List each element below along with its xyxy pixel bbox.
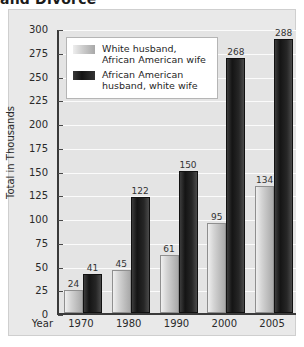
gridline [59,30,296,31]
y-axis-tick-label: 75 [8,239,48,249]
bar: 41 [83,274,102,313]
y-axis-tick-label: 150 [8,168,48,178]
y-axis-tick-mark [58,149,63,150]
x-axis-tick-label: 1980 [105,319,153,329]
x-axis-tick-label: 2000 [200,319,248,329]
gridline [59,149,296,150]
y-axis-tick-mark [58,30,63,31]
y-axis-tick-mark [58,244,63,245]
chart-legend: White husband, African American wifeAfri… [66,37,218,99]
y-axis-tick-label: 200 [8,120,48,130]
y-axis-tick-label: 275 [8,49,48,59]
gridline [59,101,296,102]
y-axis-tick-mark [58,101,63,102]
y-axis-tick-label: 250 [8,73,48,83]
x-axis-tick-label: 1970 [57,319,105,329]
y-axis-tick-mark [58,196,63,197]
y-axis-tick-mark [58,173,63,174]
y-axis-tick-label: 100 [8,215,48,225]
legend-item-label: African American husband, white wife [102,69,198,91]
bar: 95 [207,223,226,313]
chart-figure: and Divorce Total in Thousands Year 2441… [0,0,304,347]
x-axis-label: Year [19,319,53,329]
x-axis-tick-label: 2005 [248,319,296,329]
bar: 122 [131,197,150,313]
bar-value-label: 268 [227,48,244,57]
legend-swatch-light [73,45,95,54]
chart-title-text: and Divorce [0,0,304,7]
bar-value-label: 61 [163,245,174,254]
y-axis-tick-mark [58,268,63,269]
gridline [59,125,296,126]
gridline [59,173,296,174]
y-axis-tick-label: 0 [8,310,48,320]
y-axis-tick-mark [58,125,63,126]
bar-value-label: 45 [115,260,126,269]
legend-item-label: White husband, African American wife [102,43,206,65]
bar-value-label: 122 [132,187,149,196]
legend-swatch-dark [73,71,95,80]
y-axis-tick-mark [58,54,63,55]
y-axis-tick-label: 25 [8,286,48,296]
y-axis-tick-label: 300 [8,25,48,35]
bar: 24 [64,290,83,313]
chart-title-cropped: and Divorce [0,0,304,7]
x-axis-tick-label: 1990 [153,319,201,329]
bar: 61 [160,255,179,313]
y-axis-tick-mark [58,220,63,221]
bar-value-label: 41 [87,264,98,273]
y-axis-tick-label: 125 [8,191,48,201]
y-axis-tick-mark [58,291,63,292]
bar: 288 [274,39,293,313]
bar-value-label: 134 [256,176,273,185]
bar-value-label: 288 [275,29,292,38]
bar-value-label: 24 [68,280,79,289]
legend-item: African American husband, white wife [73,69,211,91]
y-axis-tick-label: 225 [8,96,48,106]
bar-value-label: 150 [179,161,196,170]
y-axis-tick-label: 175 [8,144,48,154]
y-axis-tick-label: 50 [8,263,48,273]
y-axis-tick-mark [58,78,63,79]
bar: 45 [112,270,131,313]
bar-value-label: 95 [211,213,222,222]
bar: 150 [179,171,198,314]
y-axis-tick-mark [58,315,63,316]
legend-item: White husband, African American wife [73,43,211,65]
bar: 134 [255,186,274,313]
bar: 268 [226,58,245,313]
chart-frame: Total in Thousands Year 2441451226115095… [8,9,296,336]
